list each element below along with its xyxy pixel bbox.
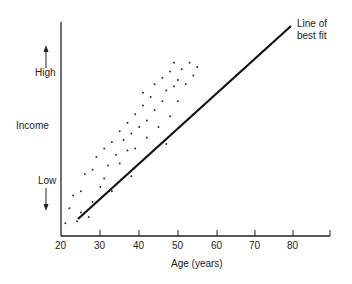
y-high-label: High bbox=[35, 67, 56, 78]
data-point bbox=[185, 83, 187, 85]
data-point bbox=[134, 147, 136, 149]
data-point bbox=[150, 96, 152, 98]
x-tick-50: 50 bbox=[172, 240, 183, 251]
x-tick-30: 30 bbox=[94, 240, 105, 251]
line-of-best-fit bbox=[78, 26, 291, 219]
y-low-label: Low bbox=[38, 175, 56, 186]
data-point bbox=[127, 150, 129, 152]
up-arrow-icon bbox=[44, 45, 49, 68]
data-point bbox=[119, 130, 121, 132]
data-point bbox=[130, 175, 132, 177]
data-point bbox=[169, 70, 171, 72]
data-point bbox=[92, 169, 94, 171]
data-point bbox=[154, 83, 156, 85]
y-axis-label: Income bbox=[16, 120, 49, 131]
data-point bbox=[76, 220, 78, 222]
data-point bbox=[72, 195, 74, 197]
data-point bbox=[107, 165, 109, 167]
data-point bbox=[111, 141, 113, 143]
data-point bbox=[68, 207, 70, 209]
data-point bbox=[154, 109, 156, 111]
data-point bbox=[88, 216, 90, 218]
x-axis-label: Age (years) bbox=[171, 258, 223, 269]
data-point bbox=[158, 126, 160, 128]
data-point bbox=[111, 190, 113, 192]
data-point bbox=[196, 66, 198, 68]
data-point bbox=[115, 154, 117, 156]
data-point bbox=[165, 143, 167, 145]
data-point bbox=[146, 120, 148, 122]
x-tick-80: 80 bbox=[287, 240, 298, 251]
data-point bbox=[177, 100, 179, 102]
data-point bbox=[80, 212, 82, 214]
x-tick-60: 60 bbox=[211, 240, 222, 251]
data-point bbox=[146, 137, 148, 139]
data-point bbox=[173, 62, 175, 64]
data-point bbox=[161, 100, 163, 102]
down-arrow-icon bbox=[44, 188, 49, 211]
data-point bbox=[103, 177, 105, 179]
data-point bbox=[80, 190, 82, 192]
data-point bbox=[165, 90, 167, 92]
data-point bbox=[103, 147, 105, 149]
data-points bbox=[64, 62, 198, 225]
x-ticks bbox=[100, 230, 330, 236]
data-point bbox=[189, 62, 191, 64]
data-point bbox=[173, 85, 175, 87]
data-point bbox=[192, 75, 194, 77]
data-point bbox=[92, 201, 94, 203]
best-fit-annotation: Line of best fit bbox=[297, 18, 347, 42]
x-tick-20: 20 bbox=[55, 240, 66, 251]
data-point bbox=[99, 186, 101, 188]
data-point bbox=[134, 113, 136, 115]
data-point bbox=[127, 122, 129, 124]
data-point bbox=[181, 68, 183, 70]
x-tick-70: 70 bbox=[249, 240, 260, 251]
data-point bbox=[177, 79, 179, 81]
data-point bbox=[161, 77, 163, 79]
data-point bbox=[138, 126, 140, 128]
data-point bbox=[123, 139, 125, 141]
data-point bbox=[142, 105, 144, 107]
data-point bbox=[119, 162, 121, 164]
data-point bbox=[64, 222, 66, 224]
data-point bbox=[142, 92, 144, 94]
data-point bbox=[169, 115, 171, 117]
data-point bbox=[84, 173, 86, 175]
data-point bbox=[95, 156, 97, 158]
x-tick-40: 40 bbox=[133, 240, 144, 251]
data-point bbox=[130, 132, 132, 134]
